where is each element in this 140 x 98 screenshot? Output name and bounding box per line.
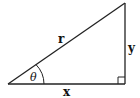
right-triangle-diagram: r y x θ [0, 0, 140, 98]
hypotenuse-line [8, 3, 125, 84]
label-theta: θ [30, 71, 37, 84]
label-r: r [58, 32, 65, 46]
label-y: y [127, 41, 136, 55]
right-angle-marker [118, 77, 125, 84]
triangle [8, 3, 125, 84]
angle-arc [36, 65, 44, 84]
label-x: x [63, 85, 71, 98]
